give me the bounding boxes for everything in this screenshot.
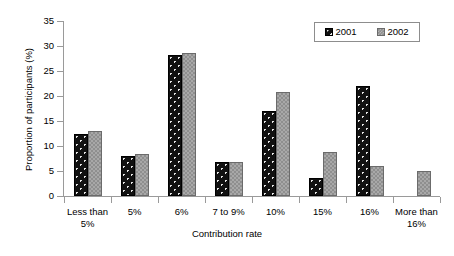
y-axis-tick-label: 30: [20, 41, 54, 51]
y-axis-tick-label: 10: [20, 141, 54, 151]
x-axis-tick: [252, 197, 253, 203]
y-axis-tick-label: 35: [20, 16, 54, 26]
x-axis-tick: [299, 197, 300, 203]
x-axis-tick: [64, 197, 65, 203]
y-axis-tick-label: 25: [20, 66, 54, 76]
bar-2002-16-: [370, 166, 384, 196]
y-axis-tick: [57, 46, 64, 47]
bar-2002-6-: [182, 53, 196, 196]
bar-2002-5-: [135, 154, 149, 196]
bar-2001-16-: [356, 86, 370, 196]
bar-2001-6-: [168, 55, 182, 196]
bar-2001-5-: [121, 156, 135, 196]
y-axis-tick-label: 0: [20, 191, 54, 201]
x-axis-tick: [111, 197, 112, 203]
bar-2001-less-than-5-: [74, 134, 88, 196]
y-axis-tick: [57, 71, 64, 72]
x-axis-tick: [393, 197, 394, 203]
y-axis-tick: [57, 121, 64, 122]
bar-2001-10-: [262, 111, 276, 196]
bar-2001-7-to-9-: [215, 162, 229, 196]
x-axis-tick: [440, 197, 441, 203]
legend-swatch-2002-icon: [377, 28, 385, 36]
bar-2002-15-: [323, 152, 337, 196]
x-axis-category-label: More than16%: [387, 206, 446, 230]
x-axis-category-label-line: More than: [387, 206, 446, 218]
y-axis-tick: [57, 146, 64, 147]
x-axis-tick: [205, 197, 206, 203]
x-axis-tick: [158, 197, 159, 203]
legend-label-2002: 2002: [387, 27, 408, 37]
y-axis-tick: [57, 171, 64, 172]
bar-2002-10-: [276, 92, 290, 196]
legend-label-2001: 2001: [335, 27, 356, 37]
x-axis-title: Contribution rate: [0, 228, 454, 239]
bar-chart: Proportion of participants (%) 051015202…: [0, 0, 454, 256]
plot-area: [64, 21, 440, 196]
legend-entry-2002: 2002: [377, 27, 408, 37]
y-axis-tick-label: 15: [20, 116, 54, 126]
legend-entry-2001: 2001: [325, 27, 356, 37]
bar-2002-more-than-16-: [417, 171, 431, 196]
x-axis-tick: [346, 197, 347, 203]
bar-2001-15-: [309, 178, 323, 196]
y-axis-tick: [57, 21, 64, 22]
y-axis-tick-label: 5: [20, 166, 54, 176]
legend: 2001 2002: [314, 22, 420, 42]
legend-swatch-2001-icon: [325, 28, 333, 36]
bar-2002-less-than-5-: [88, 131, 102, 196]
y-axis-tick-label: 20: [20, 91, 54, 101]
bar-2002-7-to-9-: [229, 162, 243, 196]
y-axis-tick: [57, 96, 64, 97]
